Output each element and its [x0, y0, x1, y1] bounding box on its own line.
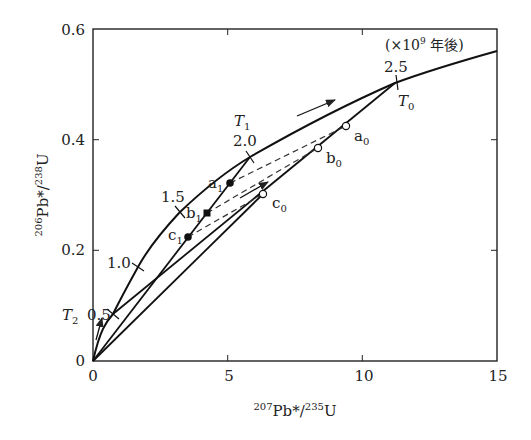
point-b1 [204, 210, 211, 217]
point-a1 [226, 179, 234, 187]
label-T1: T1 [234, 112, 250, 132]
age-label-2-0: 2.0 [233, 132, 257, 150]
label-c1: c1 [168, 226, 183, 246]
plot-frame [93, 29, 497, 361]
age-label-0-5: 0.5 [87, 306, 111, 324]
label-T0: T0 [398, 92, 414, 112]
unit-annotation: (×109 年後) [385, 36, 464, 53]
concordia-curve [93, 51, 497, 361]
y-tick-label: 0.4 [61, 131, 85, 149]
point-c0 [259, 190, 266, 197]
y-tick-label: 0.2 [61, 241, 85, 259]
point-a0 [342, 122, 349, 129]
label-T2: T2 [62, 306, 78, 326]
x-tick-label: 15 [488, 367, 507, 385]
age-label-1-0: 1.0 [107, 254, 131, 272]
label-a0: a0 [354, 127, 369, 147]
y-ticks [93, 140, 497, 251]
y-tick-label: 0 [75, 352, 85, 370]
dashed-line-b [207, 148, 318, 213]
x-ticks [228, 29, 363, 361]
x-tick-label: 5 [224, 367, 234, 385]
point-b0 [314, 144, 321, 151]
y-tick-label: 0.6 [61, 21, 85, 39]
x-tick-label: 0 [88, 367, 98, 385]
x-tick-labels: 0 5 10 15 [88, 367, 507, 385]
point-c1 [184, 233, 192, 241]
evolution-line-origin-c0 [93, 194, 263, 361]
age-label-2-5: 2.5 [384, 58, 408, 76]
label-c0: c0 [272, 194, 287, 214]
label-b1: b1 [186, 204, 202, 224]
x-axis-label: 207Pb*/235U [253, 401, 336, 420]
x-tick-label: 10 [354, 367, 373, 385]
y-axis-label: 206Pb*/238U [33, 153, 52, 236]
concordia-diagram: 0 0.2 0.4 0.6 0 5 10 15 207Pb*/235U 206P… [0, 0, 531, 440]
age-label-1-5: 1.5 [161, 188, 185, 206]
label-b0: b0 [326, 149, 342, 169]
